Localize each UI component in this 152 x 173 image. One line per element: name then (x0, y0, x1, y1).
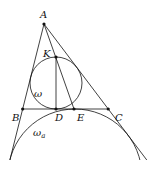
geometry-diagram: A K B D E C ω ωa (0, 0, 152, 173)
label-d: D (54, 112, 63, 123)
label-e: E (76, 112, 85, 123)
point-c (107, 107, 110, 110)
point-e (72, 107, 75, 110)
label-omega-a: ωa (33, 127, 45, 140)
point-k (54, 55, 57, 58)
label-omega: ω (34, 88, 42, 99)
line-ac (44, 24, 151, 165)
label-a: A (39, 9, 47, 20)
point-b (21, 107, 24, 110)
label-b: B (11, 112, 19, 123)
point-d (54, 107, 57, 110)
label-c: C (115, 112, 123, 123)
point-a (42, 22, 45, 25)
label-k: K (42, 48, 51, 59)
segment-ae (44, 24, 74, 109)
